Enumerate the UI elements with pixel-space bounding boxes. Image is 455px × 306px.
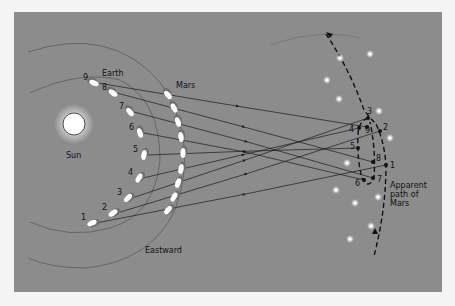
mars-icon: [178, 161, 187, 175]
earth-orbit: [30, 77, 160, 233]
earth-position-number: 8: [102, 83, 107, 92]
mars-icon: [168, 99, 180, 113]
path-outer: [326, 34, 386, 256]
sight-lines: [96, 83, 386, 223]
apparent-point: [356, 146, 360, 150]
apparent-point: [366, 116, 370, 120]
earth-position-number: 1: [81, 213, 86, 222]
sun-label: Sun: [66, 151, 81, 160]
sight-line: [134, 112, 246, 142]
earth-position-number: 2: [102, 203, 107, 212]
earth-label: Earth: [102, 69, 123, 78]
apparent-point-number: 5: [350, 142, 355, 151]
sun-icon: [54, 104, 94, 144]
mars-icon: [161, 86, 175, 100]
earth-position-number: 9: [83, 73, 88, 82]
earth-icon: [123, 191, 137, 205]
apparent-point: [371, 160, 375, 164]
earth-position-number: 4: [128, 168, 133, 177]
earth-icon: [107, 207, 121, 220]
apparent-point: [384, 163, 388, 167]
apparent-point: [371, 176, 375, 180]
apparent-point-number: 4: [349, 125, 354, 134]
mars-label: Mars: [176, 81, 195, 90]
earth-icon: [105, 85, 119, 98]
sight-line: [143, 155, 243, 178]
apparent-point: [362, 178, 366, 182]
apparent-point-number: 2: [383, 123, 388, 132]
apparent-point: [378, 129, 382, 133]
apparent-point-number: 7: [377, 175, 382, 184]
earth-icon: [86, 217, 100, 229]
apparent-path-label-2: path of: [390, 190, 419, 199]
mars-icon: [180, 146, 187, 159]
sight-line: [238, 106, 367, 127]
apparent-point-number: 9: [365, 126, 370, 135]
apparent-point-number: 3: [367, 107, 372, 116]
mars-icon: [173, 113, 184, 127]
earth-position-number: 7: [119, 102, 124, 111]
apparent-point-number: 6: [355, 179, 360, 188]
mars-icon: [177, 129, 186, 143]
apparent-path-label-3: Mars: [390, 199, 409, 208]
apparent-path: [326, 32, 386, 256]
sight-line: [132, 160, 245, 198]
earth-icon: [141, 147, 150, 161]
apparent-point-number: 1: [390, 161, 395, 170]
sight-line: [244, 148, 358, 151]
eastward-label: Eastward: [145, 246, 182, 255]
retrograde-diagram: 123456789 123456789 Earth Mars Sun Eastw…: [0, 0, 455, 306]
apparent-path-label-1: Apparent: [390, 181, 427, 190]
earth-position-number: 5: [133, 145, 138, 154]
sight-line: [148, 151, 244, 155]
apparent-point-number: 8: [376, 154, 381, 163]
earth-icon: [135, 124, 146, 138]
outer-arc: [270, 34, 360, 45]
sight-line: [246, 131, 380, 174]
earth-position-number: 6: [129, 123, 134, 132]
earth-icon: [123, 103, 137, 117]
apparent-point: [357, 126, 361, 130]
earth-icon: [86, 76, 100, 87]
earth-position-number: 3: [117, 188, 122, 197]
